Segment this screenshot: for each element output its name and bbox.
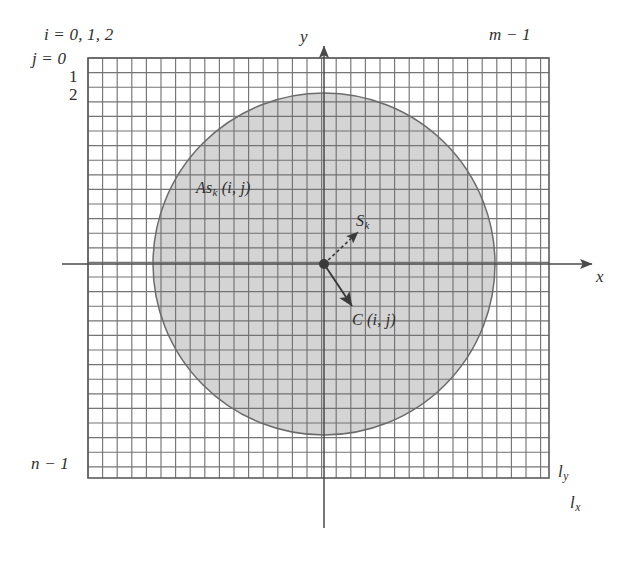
label-as-k-base: As [196,179,212,196]
label-l-x-sub: x [575,501,580,514]
label-s-k: Sk [356,213,369,231]
label-j-index-0: j = 0 [32,50,66,67]
label-s-k-base: S [356,212,364,229]
label-l-y-sub: y [563,470,568,483]
center-point-dot [319,259,329,269]
label-axis-y: y [300,28,308,45]
figure-container: i = 0, 1, 2 j = 0 1 2 m − 1 n − 1 ly lx … [0,0,639,570]
label-l-y: ly [558,463,568,483]
grid-circle-diagram [0,0,639,570]
label-m-minus-1: m − 1 [489,26,531,43]
label-i-indices: i = 0, 1, 2 [44,26,113,43]
label-as-k-args: (i, j) [218,179,251,196]
label-axis-x: x [596,268,604,285]
label-j-index-2: 2 [69,86,78,103]
label-n-minus-1: n − 1 [31,455,69,472]
label-c-ij: C (i, j) [352,312,396,328]
label-as-k-ij: Ask (i, j) [196,180,251,198]
label-l-x: lx [570,494,580,514]
label-s-k-sub: k [364,219,369,231]
label-j-index-1: 1 [69,68,78,85]
